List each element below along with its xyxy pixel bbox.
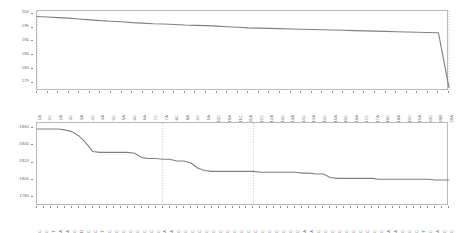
x-tick-label: 37C [184,230,188,233]
x-tick-label: 63C [366,230,370,233]
x-tick-mark [163,91,164,93]
y-tick-mark [31,82,33,83]
x-tick-label: 32C [150,230,154,233]
x-tick-label: 58C [331,230,335,233]
x-tick-mark [371,206,372,208]
x-tick-mark [268,91,269,93]
x-tick-label: 25C [108,230,112,233]
x-tick-mark [71,206,72,208]
x-tick-mark [225,206,226,208]
x-tick-mark [311,91,312,93]
x-tick-mark [245,206,246,208]
x-tick-label: 51C [282,230,286,233]
x-tick-label: 26C [115,230,119,233]
x-tick-mark [332,91,333,93]
y-tick-mark [31,54,33,55]
x-tick-label: 55A [310,230,314,233]
x-tick-mark [152,91,153,93]
x-tick-mark [258,91,259,93]
x-tick-mark [448,206,449,208]
x-tick-label: 31C [143,230,147,233]
x-tick-mark [155,206,156,208]
x-tick-mark [416,91,417,93]
x-tick-label: 41C [212,230,216,233]
x-tick-label: 42C [219,230,223,233]
upper-plot-svg [37,11,449,91]
x-tick-mark [266,206,267,208]
x-tick-label: 66A [394,230,398,233]
x-tick-label: 22C [87,230,91,233]
x-tick-mark [301,206,302,208]
x-tick-mark [184,91,185,93]
x-tick-mark [427,91,428,93]
x-tick-label: 39C [198,230,202,233]
x-tick-label: 21C [73,230,77,233]
x-tick-mark [204,206,205,208]
x-tick-mark [120,206,121,208]
y-tick-mark [31,40,33,41]
lower-plot-svg [37,123,449,206]
x-tick-mark [134,206,135,208]
x-tick-mark [43,206,44,208]
x-tick-label: 70T [422,230,426,233]
x-tick-mark [169,206,170,208]
x-tick-mark [322,206,323,208]
y-tick-mark [31,127,33,128]
x-tick-label: 64C [373,230,377,233]
y-tick-mark [31,27,33,28]
x-tick-mark [89,91,90,93]
lower-x-axis-ticks: 15C16C17T18A20A21C21D22C24C24T25C26C28C2… [36,206,448,232]
x-tick-label: 49C [268,230,272,233]
x-tick-mark [448,91,449,93]
y-tick-mark [31,196,33,197]
x-tick-label: 50C [275,230,279,233]
x-tick-mark [162,206,163,208]
x-tick-mark [441,206,442,208]
x-tick-label: 62C [359,230,363,233]
y-tick-mark [31,13,33,14]
x-tick-mark [300,91,301,93]
x-tick-label: 54A [303,230,307,233]
x-tick-mark [239,206,240,208]
x-tick-mark [273,206,274,208]
upper-plot-area [36,10,448,90]
x-tick-mark [342,91,343,93]
x-tick-label: 24C [94,230,98,233]
x-tick-mark [315,206,316,208]
x-tick-mark [148,206,149,208]
x-tick-mark [99,91,100,93]
x-tick-mark [190,206,191,208]
x-tick-label: 44C [233,230,237,233]
x-tick-mark [385,91,386,93]
x-tick-mark [321,91,322,93]
x-tick-mark [176,206,177,208]
x-tick-label: 24T [101,230,105,233]
x-tick-mark [173,91,174,93]
x-tick-label: 16C [45,230,49,233]
x-tick-label: 57C [324,230,328,233]
x-tick-mark [218,206,219,208]
x-tick-mark [197,206,198,208]
x-tick-mark [378,206,379,208]
x-tick-label: 59C [338,230,342,233]
x-tick-label: 36C [177,230,181,233]
lower-y-axis-ticks: 18601840182018001780 [0,122,33,205]
x-tick-mark [392,206,393,208]
upper-y-axis-ticks: 200195190185180175 [0,10,33,90]
x-tick-mark [343,206,344,208]
x-tick-label: 48C [261,230,265,233]
x-tick-mark [385,206,386,208]
x-tick-mark [183,206,184,208]
x-tick-mark [406,206,407,208]
x-tick-mark [216,91,217,93]
x-tick-label: 34A [163,230,167,233]
y-tick-mark [31,144,33,145]
x-tick-label: 56C [317,230,321,233]
y-tick-mark [31,179,33,180]
x-tick-mark [68,91,69,93]
x-tick-label: 20A [66,230,70,233]
lower-plot-area [36,122,448,205]
x-tick-mark [64,206,65,208]
x-tick-label: 33C [157,230,161,233]
x-tick-mark [142,91,143,93]
